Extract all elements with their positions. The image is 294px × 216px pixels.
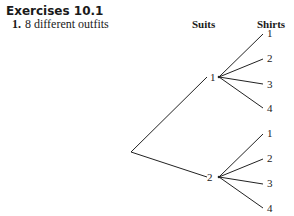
shirt-node: 3 [267,178,273,189]
shirt-node: 2 [267,53,273,64]
shirt-node: 1 [267,128,273,139]
shirt-node: 2 [267,153,273,164]
tree-diagram [0,0,294,216]
shirt-node: 4 [267,103,273,114]
suit-node-1: 1 [210,72,216,83]
suit-node-2: 2 [207,172,213,183]
shirt-node: 3 [267,79,273,90]
shirt-node: 1 [267,28,273,39]
shirt-node: 4 [267,203,273,214]
